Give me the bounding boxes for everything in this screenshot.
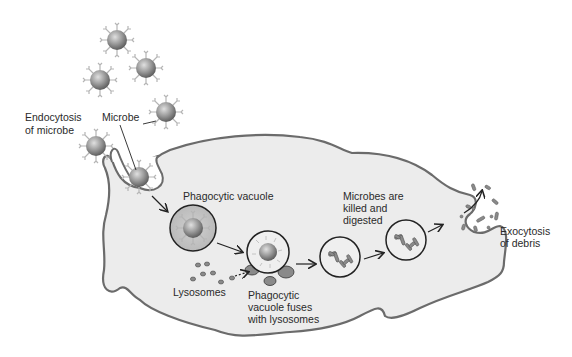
microbe-icon [149,95,183,129]
endocytosis-label-2: of microbe [25,124,74,136]
exocytosis-label-2: of debris [500,237,540,249]
microbe-icon [100,23,134,57]
lysosome-fused [264,277,276,286]
fuses-label-3: with lysosomes [247,313,319,325]
phagocytosis-diagram: Endocytosis of microbe Microbe Phagocyti… [0,0,572,357]
microbe-icon [83,63,117,97]
fuses-label-2: vacuole fuses [248,301,312,313]
microbe-label: Microbe [102,111,140,123]
endocytosis-label-1: Endocytosis [25,111,82,123]
phagocytic-vacuole-label: Phagocytic vacuole [183,190,274,202]
digesting-microbe-icon [259,243,277,261]
microbe-icon [129,51,163,85]
killed-label-2: killed and [343,202,388,214]
lysosomes-label: Lysosomes [173,286,226,298]
exocytosis-label-1: Exocytosis [500,225,550,237]
killed-microbes-vacuole [320,237,360,277]
digested-vacuole [386,220,426,260]
fuses-label-1: Phagocytic [248,289,299,301]
killed-label-3: digested [343,214,383,226]
killed-label-1: Microbes are [343,190,404,202]
